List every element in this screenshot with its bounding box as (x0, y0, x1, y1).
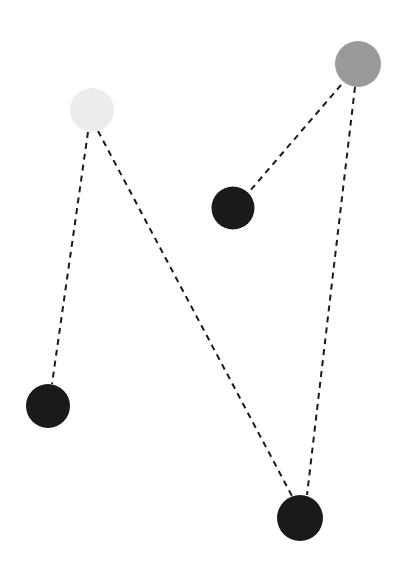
node-black-bottom-left[interactable]: black node bottom left (26, 384, 70, 428)
node-black-bottom-right[interactable]: black node bottom right (277, 495, 323, 541)
diagram-svg: light gray nodemedium gray nodeblack nod… (0, 0, 402, 566)
node-gray-top-right[interactable]: medium gray node (335, 41, 381, 87)
node-light-top-left[interactable]: light gray node (70, 88, 114, 132)
diagram-canvas: light gray nodemedium gray nodeblack nod… (0, 0, 402, 566)
canvas-background (0, 0, 402, 566)
node-black-middle[interactable]: black node middle (212, 187, 255, 230)
